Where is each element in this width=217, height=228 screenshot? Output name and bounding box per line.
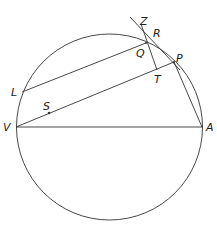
label-R: R [153, 27, 161, 40]
tangent-line-RP [130, 17, 180, 70]
diagram-svg: V A L S Q P T R Z [0, 0, 217, 228]
label-S: S [43, 100, 50, 113]
label-V: V [3, 121, 12, 134]
label-T: T [154, 73, 162, 86]
label-P: P [176, 52, 183, 65]
label-A: A [205, 121, 214, 134]
label-Q: Q [136, 47, 145, 60]
label-Z: Z [139, 15, 148, 28]
segment-VP [16, 62, 174, 127]
segment-PA [174, 62, 202, 127]
label-L: L [11, 86, 17, 99]
segment-LQ [22, 43, 146, 92]
point-Q-dot [145, 42, 147, 44]
orbit-diagram: V A L S Q P T R Z [0, 0, 217, 228]
point-P-dot [173, 61, 175, 63]
